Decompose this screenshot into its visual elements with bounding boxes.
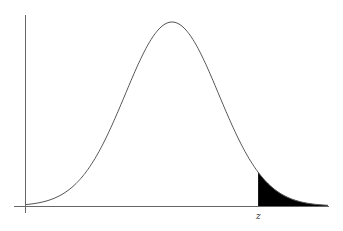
normal-curve xyxy=(26,22,328,205)
z-label: z xyxy=(255,211,261,221)
normal-distribution-diagram: z xyxy=(0,0,343,231)
shaded-tail-region xyxy=(258,172,328,206)
